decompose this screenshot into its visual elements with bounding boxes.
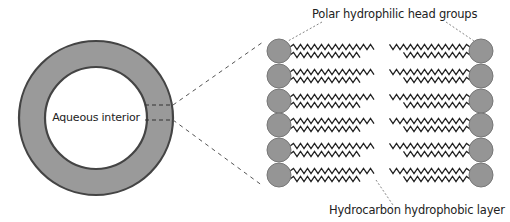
right-tail-1	[404, 52, 471, 57]
left-head-group-4	[267, 113, 291, 137]
right-head-group-2	[469, 64, 493, 88]
right-head-group-4	[469, 113, 493, 137]
right-head-group-1	[469, 39, 493, 63]
right-tail-3	[390, 94, 471, 99]
left-head-group-3	[267, 89, 291, 113]
left-tail-3	[290, 94, 374, 99]
right-tail-6	[404, 176, 471, 181]
head-groups-label: Polar hydrophilic head groups	[312, 7, 477, 21]
left-tail-3	[290, 102, 360, 107]
right-tail-4	[390, 118, 471, 123]
right-tail-3	[404, 102, 471, 107]
hydrocarbon-tails	[290, 44, 470, 181]
left-tail-1	[290, 52, 360, 57]
left-tail-5	[290, 151, 360, 156]
left-head-group-6	[267, 163, 291, 187]
right-head-group-6	[469, 163, 493, 187]
right-tail-5	[390, 143, 471, 148]
right-tail-2	[404, 77, 471, 82]
left-tail-6	[290, 168, 374, 173]
left-tail-2	[290, 69, 374, 74]
left-tail-2	[290, 77, 360, 82]
right-tail-4	[404, 126, 471, 131]
left-tail-6	[290, 176, 360, 181]
hydrophobic-layer-label: Hydrocarbon hydrophobic layer	[329, 203, 505, 217]
right-head-group-3	[469, 89, 493, 113]
left-tail-4	[290, 118, 374, 123]
aqueous-interior-label: Aqueous interior	[0, 111, 192, 124]
right-tail-6	[390, 168, 471, 173]
left-tail-4	[290, 126, 360, 131]
left-head-group-2	[267, 64, 291, 88]
right-tail-1	[390, 44, 471, 49]
right-tail-2	[390, 69, 471, 74]
left-head-group-1	[267, 39, 291, 63]
right-tail-5	[404, 151, 471, 156]
right-head-group-5	[469, 138, 493, 162]
left-tail-1	[290, 44, 374, 49]
left-tail-5	[290, 143, 374, 148]
left-head-group-5	[267, 138, 291, 162]
polar-head-groups	[267, 39, 493, 187]
